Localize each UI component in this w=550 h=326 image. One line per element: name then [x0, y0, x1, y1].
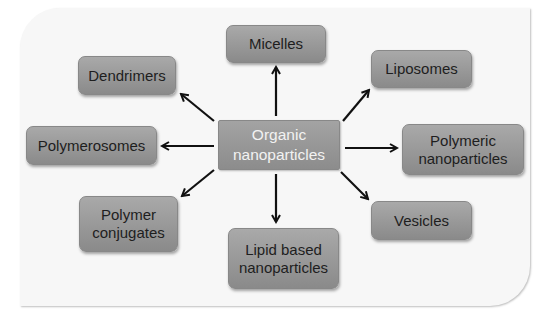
micelles-label: Micelles — [249, 35, 303, 53]
arrow-to-dendrimers — [181, 94, 214, 121]
center-node-organic-nanoparticles: Organic nanoparticles — [218, 120, 340, 170]
lipid-label-line2: nanoparticles — [239, 259, 328, 277]
center-label-line1: Organic — [252, 125, 306, 145]
node-polymeric-nanoparticles: Polymeric nanoparticles — [402, 124, 524, 175]
node-vesicles: Vesicles — [371, 201, 472, 240]
lipid-label-line1: Lipid based — [245, 241, 322, 259]
dendrimers-label: Dendrimers — [88, 67, 166, 85]
node-polymer-conjugates: Polymer conjugates — [79, 196, 178, 252]
arrow-to-vesicles — [341, 172, 368, 199]
center-label-line2: nanoparticles — [233, 145, 325, 165]
polymer-conjugates-label-line2: conjugates — [92, 224, 165, 242]
arrow-to-liposomes — [343, 90, 369, 121]
polymeric-label-line2: nanoparticles — [418, 150, 507, 168]
node-lipid-based-nanoparticles: Lipid based nanoparticles — [228, 228, 339, 289]
polymerosomes-label: Polymerosomes — [38, 137, 146, 155]
node-liposomes: Liposomes — [371, 50, 472, 88]
arrow-to-polymer-conjugates — [182, 170, 214, 196]
node-polymerosomes: Polymerosomes — [26, 126, 157, 165]
polymer-conjugates-label-line1: Polymer — [101, 206, 156, 224]
polymeric-label-line1: Polymeric — [430, 132, 496, 150]
node-micelles: Micelles — [226, 25, 326, 63]
vesicles-label: Vesicles — [394, 212, 449, 230]
node-dendrimers: Dendrimers — [78, 56, 176, 95]
liposomes-label: Liposomes — [385, 60, 458, 78]
